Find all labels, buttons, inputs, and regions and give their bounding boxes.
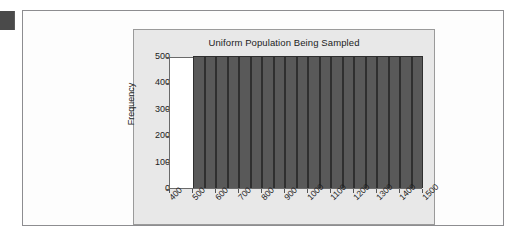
bar — [389, 56, 401, 188]
bar — [274, 56, 286, 188]
x-axis: 4005006007008009001000110012001300140015… — [169, 189, 422, 238]
bar — [377, 56, 389, 188]
y-tick-label: 200 — [128, 130, 170, 142]
bar — [193, 56, 205, 188]
bar — [366, 56, 378, 188]
page-edge-marker — [0, 11, 15, 30]
bar — [285, 56, 297, 188]
y-tick-label: 300 — [128, 104, 170, 116]
page-content-box: Uniform Population Being Sampled Frequen… — [22, 10, 504, 226]
bar — [320, 56, 332, 188]
y-tick-label: 400 — [128, 77, 170, 89]
chart-panel: Uniform Population Being Sampled Frequen… — [133, 29, 435, 225]
chart-title: Uniform Population Being Sampled — [134, 37, 434, 48]
y-tick-label: 500 — [128, 51, 170, 63]
y-tick-label: 0 — [128, 183, 170, 195]
bar — [228, 56, 240, 188]
bar — [412, 56, 424, 188]
bar — [262, 56, 274, 188]
bar — [400, 56, 412, 188]
bar — [216, 56, 228, 188]
bar — [308, 56, 320, 188]
bar — [343, 56, 355, 188]
bar — [251, 56, 263, 188]
bar — [331, 56, 343, 188]
bar — [239, 56, 251, 188]
bar — [354, 56, 366, 188]
x-tick-label: 1500 — [420, 182, 440, 202]
y-tick-label: 100 — [128, 157, 170, 169]
bars-layer — [170, 58, 421, 188]
bar — [297, 56, 309, 188]
bar — [205, 56, 217, 188]
plot-area — [169, 57, 422, 189]
y-axis: 0100200300400500 — [134, 57, 170, 189]
